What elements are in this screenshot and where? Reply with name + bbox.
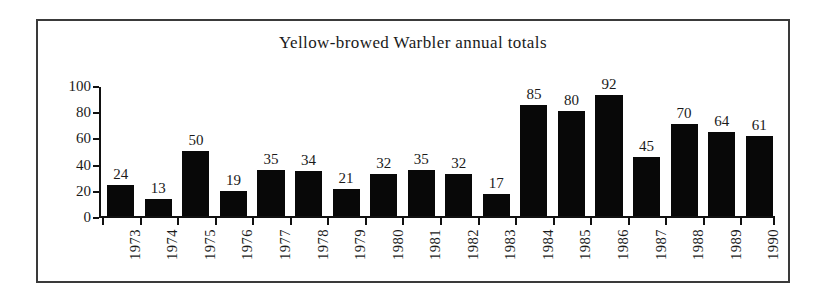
x-axis-label-1986: 1986 xyxy=(615,229,632,260)
x-axis-label-1973: 1973 xyxy=(127,229,144,260)
x-tick-1989 xyxy=(703,218,705,225)
x-axis-label-1974: 1974 xyxy=(164,229,181,260)
bar-1982 xyxy=(445,174,472,216)
x-axis-label-1979: 1979 xyxy=(352,229,369,260)
bar-1990 xyxy=(746,136,773,216)
y-tick-label-100: 100 xyxy=(69,78,92,95)
x-tick-1988 xyxy=(665,218,667,225)
y-tick-label-60: 60 xyxy=(76,130,91,147)
x-tick-1982 xyxy=(440,218,442,225)
x-axis-label-1983: 1983 xyxy=(502,229,519,260)
bar-1973 xyxy=(107,185,134,216)
x-tick-1984 xyxy=(515,218,517,225)
x-tick-1974 xyxy=(140,218,142,225)
x-axis-label-1977: 1977 xyxy=(277,229,294,260)
x-tick-1978 xyxy=(290,218,292,225)
bar-value-label-1989: 64 xyxy=(714,113,729,130)
x-axis-label-1987: 1987 xyxy=(653,229,670,260)
bar-1988 xyxy=(671,124,698,216)
y-tick-80 xyxy=(93,112,99,114)
y-tick-40 xyxy=(93,165,99,167)
bar-1976 xyxy=(220,191,247,216)
x-tick-end xyxy=(773,218,775,225)
bar-value-label-1978: 34 xyxy=(301,152,316,169)
bar-1986 xyxy=(595,95,622,216)
bar-1975 xyxy=(182,151,209,217)
chart-figure: Yellow-browed Warbler annual totals 0204… xyxy=(0,0,822,298)
bar-value-label-1977: 35 xyxy=(264,151,279,168)
x-tick-1990 xyxy=(740,218,742,225)
bar-1984 xyxy=(520,105,547,216)
x-tick-1983 xyxy=(478,218,480,225)
x-axis-label-1990: 1990 xyxy=(765,229,782,260)
y-tick-20 xyxy=(93,191,99,193)
bar-value-label-1979: 21 xyxy=(339,170,354,187)
y-tick-60 xyxy=(93,138,99,140)
bar-1981 xyxy=(408,170,435,216)
plot-area: 020406080100 241350193534213235321785809… xyxy=(99,87,775,218)
x-tick-1987 xyxy=(628,218,630,225)
x-axis-label-1984: 1984 xyxy=(540,229,557,260)
x-tick-1985 xyxy=(553,218,555,225)
bar-value-label-1984: 85 xyxy=(526,86,541,103)
x-tick-1975 xyxy=(177,218,179,225)
bar-1974 xyxy=(145,199,172,216)
bar-value-label-1973: 24 xyxy=(113,166,128,183)
y-tick-label-40: 40 xyxy=(76,156,91,173)
x-tick-1980 xyxy=(365,218,367,225)
x-tick-1986 xyxy=(590,218,592,225)
y-tick-0 xyxy=(93,217,99,219)
bar-value-label-1986: 92 xyxy=(602,76,617,93)
bar-value-label-1983: 17 xyxy=(489,175,504,192)
bar-value-label-1975: 50 xyxy=(188,132,203,149)
bar-value-label-1976: 19 xyxy=(226,172,241,189)
bar-1980 xyxy=(370,174,397,216)
chart-frame: Yellow-browed Warbler annual totals 0204… xyxy=(36,19,790,283)
x-axis-label-1985: 1985 xyxy=(577,229,594,260)
x-axis-label-1989: 1989 xyxy=(728,229,745,260)
y-tick-label-20: 20 xyxy=(76,183,91,200)
bar-value-label-1981: 35 xyxy=(414,151,429,168)
bar-1983 xyxy=(483,194,510,216)
bar-value-label-1987: 45 xyxy=(639,138,654,155)
bar-value-label-1980: 32 xyxy=(376,155,391,172)
x-tick-1979 xyxy=(327,218,329,225)
x-axis-label-1978: 1978 xyxy=(315,229,332,260)
x-axis-label-1982: 1982 xyxy=(465,229,482,260)
x-tick-1981 xyxy=(402,218,404,225)
bar-value-label-1974: 13 xyxy=(151,180,166,197)
x-tick-1977 xyxy=(252,218,254,225)
x-axis-label-1980: 1980 xyxy=(390,229,407,260)
x-axis-label-1976: 1976 xyxy=(239,229,256,260)
bar-1977 xyxy=(257,170,284,216)
y-tick-label-80: 80 xyxy=(76,104,91,121)
bar-1985 xyxy=(558,111,585,216)
x-axis-label-1975: 1975 xyxy=(202,229,219,260)
bar-1987 xyxy=(633,157,660,216)
y-tick-label-0: 0 xyxy=(84,209,92,226)
bar-value-label-1985: 80 xyxy=(564,92,579,109)
x-axis-label-1981: 1981 xyxy=(427,229,444,260)
y-axis-line xyxy=(99,87,101,218)
x-axis-label-1988: 1988 xyxy=(690,229,707,260)
bar-value-label-1982: 32 xyxy=(451,155,466,172)
bar-1978 xyxy=(295,171,322,216)
x-tick-1976 xyxy=(215,218,217,225)
bar-1979 xyxy=(333,189,360,217)
bar-1989 xyxy=(708,132,735,216)
bar-value-label-1988: 70 xyxy=(677,105,692,122)
x-axis-line xyxy=(99,216,775,218)
bar-value-label-1990: 61 xyxy=(752,117,767,134)
chart-title: Yellow-browed Warbler annual totals xyxy=(38,33,788,53)
y-tick-100 xyxy=(93,86,99,88)
x-tick-1973 xyxy=(102,218,104,225)
